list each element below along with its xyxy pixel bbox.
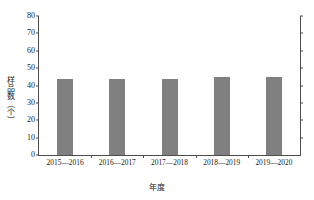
y-axis-tick-mark	[36, 155, 39, 156]
x-axis-tick-mark	[248, 155, 249, 158]
bar	[109, 79, 125, 155]
y-axis-tick-label: 60	[27, 47, 35, 55]
x-axis-tick-mark	[91, 155, 92, 158]
y-axis-tick-mark	[36, 137, 39, 138]
y-axis-tick-label: 40	[27, 82, 35, 90]
bar	[57, 79, 73, 155]
y-axis-tick-label: 10	[27, 134, 35, 142]
x-axis-tick-label: 2016—2017	[99, 159, 136, 167]
x-axis-tick-label: 2015—2016	[47, 159, 84, 167]
x-axis-tick-mark	[196, 155, 197, 158]
y-axis-tick-mark	[36, 16, 39, 17]
y-axis-tick-mark	[36, 68, 39, 69]
x-axis-tick-mark	[143, 155, 144, 158]
y-axis-tick-label: 50	[27, 64, 35, 72]
y-axis-title: 样品数（个）	[0, 48, 14, 152]
y-axis-tick-mark-right	[300, 120, 303, 121]
y-axis-tick-mark	[36, 102, 39, 103]
x-axis-tick-label: 2017—2018	[151, 159, 188, 167]
y-axis-tick-label: 0	[31, 151, 35, 159]
y-axis-tick-mark	[36, 33, 39, 34]
y-axis-tick-label: 70	[27, 29, 35, 37]
y-axis-tick-mark-right	[300, 33, 303, 34]
y-axis-tick-mark-right	[300, 102, 303, 103]
x-axis-tick-label: 2018—2019	[203, 159, 240, 167]
y-axis-tick-mark-right	[300, 50, 303, 51]
x-axis-title: 年度	[0, 181, 314, 192]
y-axis-tick-label: 80	[27, 12, 35, 20]
x-axis-tick-label: 2019—2020	[255, 159, 292, 167]
bar-chart-figure: 样品数（个） 010203040506070802015—20162016—20…	[0, 0, 314, 200]
y-axis-tick-mark-right	[300, 137, 303, 138]
y-axis-tick-mark-right	[300, 85, 303, 86]
y-axis-tick-mark	[36, 50, 39, 51]
y-axis-tick-label: 30	[27, 99, 35, 107]
bar	[162, 79, 178, 155]
bar	[266, 77, 282, 155]
bar	[214, 77, 230, 155]
y-axis-tick-mark-right	[300, 68, 303, 69]
y-axis-tick-mark	[36, 85, 39, 86]
y-axis-tick-mark-right	[300, 16, 303, 17]
plot-area: 010203040506070802015—20162016—20172017—…	[38, 16, 301, 156]
y-axis-tick-mark	[36, 120, 39, 121]
y-axis-tick-label: 20	[27, 116, 35, 124]
